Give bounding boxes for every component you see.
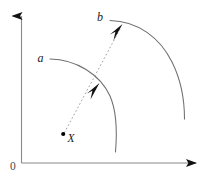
source-point-marker: [61, 132, 65, 136]
label-wavefront-a: a: [38, 51, 44, 65]
figure-canvas: 0 a b X: [0, 0, 211, 180]
origin-label: 0: [10, 160, 16, 172]
ray-arrowhead-outer: [110, 24, 123, 41]
wavefront-arc-b: [110, 21, 185, 120]
propagation-ray: [65, 29, 121, 133]
ray-arrowhead-inner: [87, 83, 100, 100]
wavefront-diagram: 0 a b X: [0, 0, 211, 180]
wavefront-arc-a: [50, 59, 116, 152]
label-wavefront-b: b: [97, 10, 103, 24]
label-source-point: X: [67, 132, 76, 144]
